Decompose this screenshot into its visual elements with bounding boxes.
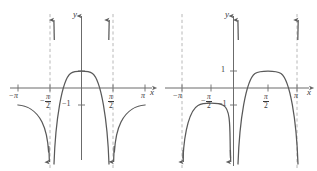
x-tick-label-neg-pi: −π [9,92,18,100]
x-tick-label-half-pi: π2 [263,92,269,110]
y-tick-label-neg-one: −1 [62,100,71,108]
secant-left-branch-arrow [49,146,50,162]
y-axis-label: y [73,10,77,19]
minus-sign: − [40,97,45,105]
y-tick-label-one: 1 [221,66,225,74]
fraction-denominator: 2 [108,102,114,110]
fraction-half-pi: π2 [108,93,114,110]
pi-glyph: π [14,91,18,100]
fraction-denominator: 2 [263,102,269,110]
secant-plot-svg [0,0,160,171]
cosecant-graph-panel: y x −π −π2 π2 π 1 −1 [157,0,317,171]
x-tick-label-pi: π [294,92,298,100]
secant-graph-panel: y x −π −π2 π2 π −1 [0,0,160,171]
y-axis-label: y [225,10,229,19]
pi-glyph: π [178,91,182,100]
secant-right-branch [114,105,145,152]
cosecant-plot-svg [157,0,317,171]
minus-sign: − [201,97,206,105]
trig-graphs-figure: y x −π −π2 π2 π −1 [0,0,317,171]
minus-sign: − [173,92,178,100]
x-tick-label-neg-pi: −π [173,92,182,100]
x-axis-label: x [150,88,154,97]
secant-left-branch [18,105,49,152]
x-tick-label-pi: π [141,92,145,100]
y-tick-label-neg-one: −1 [218,100,227,108]
fraction-denominator: 2 [206,102,212,110]
x-tick-label-half-pi: π2 [108,92,114,110]
x-tick-label-neg-half-pi: −π2 [40,92,51,110]
x-tick-label-neg-half-pi: −π2 [201,92,212,110]
fraction-half-pi: π2 [263,93,269,110]
secant-right-branch-arrow [114,146,115,162]
fraction-half-pi: π2 [45,93,51,110]
minus-sign: − [9,92,14,100]
fraction-half-pi: π2 [206,93,212,110]
x-axis-label: x [307,88,311,97]
cosecant-negative-branch [183,103,231,158]
fraction-denominator: 2 [45,102,51,110]
